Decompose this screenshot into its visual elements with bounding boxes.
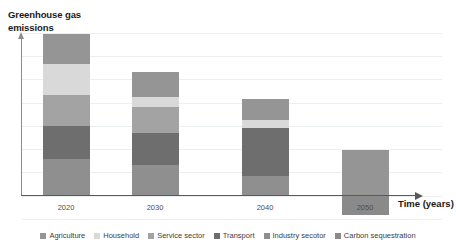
legend-label: Household: [103, 231, 139, 240]
legend-swatch-icon: [94, 233, 100, 239]
plot-area: 2020203020402050: [0, 0, 456, 249]
legend-item[interactable]: Service sector: [148, 231, 205, 240]
legend-item[interactable]: Industry secotor: [264, 231, 326, 240]
bar-2040: [242, 99, 289, 195]
bar-segment: [342, 150, 389, 196]
legend-item[interactable]: Transport: [214, 231, 255, 240]
legend-item[interactable]: Carbon sequestration: [335, 231, 416, 240]
legend-swatch-icon: [214, 233, 220, 239]
bar-segment: [242, 128, 289, 176]
bar-segment: [242, 176, 289, 195]
x-tick-label-2050: 2050: [335, 203, 395, 212]
bar-segment: [43, 159, 90, 196]
bar-segment: [132, 165, 179, 196]
legend-swatch-icon: [335, 233, 341, 239]
x-tick-label-2030: 2030: [125, 203, 185, 212]
legend-swatch-icon: [40, 233, 46, 239]
bar-segment: [242, 99, 289, 120]
bar-segment: [132, 72, 179, 97]
x-tick-label-2040: 2040: [235, 203, 295, 212]
x-axis-title: Time (years): [398, 198, 454, 209]
legend-swatch-icon: [264, 233, 270, 239]
legend-label: Service sector: [157, 231, 205, 240]
x-tick-label-2020: 2020: [36, 203, 96, 212]
bar-segment: [132, 97, 179, 107]
bar-segment: [43, 95, 90, 126]
bar-segment: [132, 133, 179, 165]
legend-label: Carbon sequestration: [344, 231, 416, 240]
bar-segment: [43, 64, 90, 95]
legend-item[interactable]: Agriculture: [40, 231, 85, 240]
greenhouse-gas-emissions-chart: Greenhouse gas emissions 202020302040205…: [0, 0, 456, 249]
legend-label: Industry secotor: [273, 231, 326, 240]
bar-segment: [43, 126, 90, 159]
bar-2020: [43, 34, 90, 195]
bar-segment: [132, 107, 179, 132]
bar-2030: [132, 72, 179, 196]
legend-label: Transport: [223, 231, 255, 240]
bar-2050: [342, 150, 389, 196]
bar-segment: [242, 120, 289, 128]
y-axis-line: [21, 38, 22, 196]
bar-segment: [43, 34, 90, 64]
legend-item[interactable]: Household: [94, 231, 139, 240]
chart-legend: AgricultureHouseholdService sectorTransp…: [0, 231, 456, 240]
legend-label: Agriculture: [49, 231, 85, 240]
x-axis-line: [21, 195, 418, 196]
legend-swatch-icon: [148, 233, 154, 239]
gridline: [22, 219, 442, 220]
